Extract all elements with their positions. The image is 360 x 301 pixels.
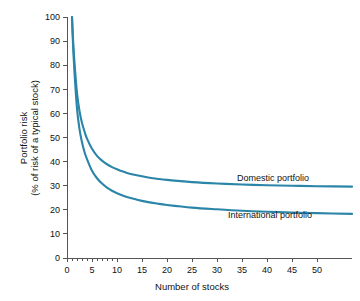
y-tick-label: 10 — [50, 229, 60, 239]
x-tick-label: 0 — [64, 265, 69, 275]
x-tick-label: 50 — [312, 265, 322, 275]
y-tick-label: 80 — [50, 60, 60, 70]
x-tick-label: 25 — [187, 265, 197, 275]
y-tick-label: 50 — [50, 133, 60, 143]
y-tick-label: 90 — [50, 36, 60, 46]
x-tick-label: 40 — [262, 265, 272, 275]
x-tick-label: 30 — [212, 265, 222, 275]
y-tick-label: 70 — [50, 85, 60, 95]
y-axis-title-line2: (% of risk of a typical stock) — [29, 80, 40, 196]
x-tick-label: 15 — [137, 265, 147, 275]
x-tick-label: 45 — [287, 265, 297, 275]
x-tick-label: 20 — [162, 265, 172, 275]
y-tick-label: 20 — [50, 205, 60, 215]
portfolio-risk-diversification-chart: 0102030405060708090100 05101520253035404… — [0, 0, 360, 301]
x-tick-label: 10 — [112, 265, 122, 275]
x-axis-title: Number of stocks — [155, 281, 229, 292]
series-label-international-portfolio: International portfolio — [228, 210, 312, 220]
series-label-domestic-portfolio: Domestic portfolio — [237, 173, 309, 183]
x-tick-label: 5 — [89, 265, 94, 275]
x-tick-label: 35 — [237, 265, 247, 275]
y-axis-title-line1: Portfolio risk — [18, 112, 29, 165]
y-tick-label: 100 — [45, 12, 60, 22]
y-tick-label: 60 — [50, 109, 60, 119]
y-tick-label: 0 — [55, 253, 60, 263]
y-tick-label: 40 — [50, 157, 60, 167]
y-tick-label: 30 — [50, 181, 60, 191]
chart-container: 0102030405060708090100 05101520253035404… — [0, 0, 360, 301]
